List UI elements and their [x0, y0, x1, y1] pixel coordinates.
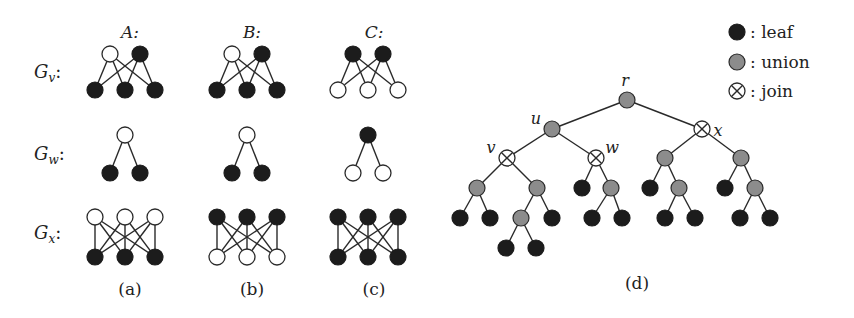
- node-hollow: [87, 209, 103, 225]
- node-filled: [117, 249, 133, 265]
- node-filled: [209, 209, 225, 225]
- tree-node-union: [513, 210, 529, 226]
- column-label-c: C:: [365, 22, 384, 42]
- node-hollow: [117, 127, 133, 143]
- node-hollow: [360, 82, 376, 98]
- graph-b-gx: [209, 209, 285, 265]
- svg-text:Gx:: Gx:: [34, 222, 61, 246]
- graph-c-gx: [330, 209, 406, 265]
- legend-leaf-label: : leaf: [750, 22, 795, 42]
- tree-node-leaf: [614, 210, 630, 226]
- caption-b: (b): [240, 279, 264, 299]
- node-filled: [117, 82, 133, 98]
- graph-c-gw: [345, 127, 391, 181]
- tree-node-leaf: [642, 180, 658, 196]
- graph-a-gw: [102, 127, 148, 181]
- tree-node-union: [544, 121, 560, 137]
- tree-node-join: [694, 121, 710, 137]
- tree-node-union: [657, 150, 673, 166]
- node-filled: [330, 209, 346, 225]
- node-hollow: [239, 127, 255, 143]
- node-filled: [224, 165, 240, 181]
- graph-a-gx: [87, 209, 163, 265]
- node-filled: [147, 82, 163, 98]
- row-label-gw: Gw:: [34, 143, 65, 167]
- tree-node-leaf: [452, 210, 468, 226]
- graph-a-gv: [87, 46, 163, 98]
- node-filled: [390, 249, 406, 265]
- node-filled: [269, 82, 285, 98]
- tree-node-leaf: [732, 210, 748, 226]
- node-hollow: [239, 249, 255, 265]
- tree-node-leaf: [687, 210, 703, 226]
- node-filled: [390, 209, 406, 225]
- tree-node-leaf: [584, 210, 600, 226]
- graph-b-gv: [209, 46, 285, 98]
- node-filled: [209, 82, 225, 98]
- node-filled: [360, 127, 376, 143]
- node-hollow: [209, 249, 225, 265]
- tree-node-leaf: [657, 210, 673, 226]
- node-filled: [87, 249, 103, 265]
- tree-node-union: [603, 180, 619, 196]
- tree-node-union: [619, 92, 635, 108]
- node-hollow: [375, 165, 391, 181]
- node-filled: [345, 46, 361, 62]
- node-hollow: [224, 46, 240, 62]
- node-hollow: [390, 82, 406, 98]
- tree-label-x: x: [713, 121, 722, 140]
- node-filled: [132, 46, 148, 62]
- tree-node-leaf: [574, 180, 590, 196]
- node-filled: [147, 249, 163, 265]
- caption-d: (d): [625, 273, 649, 293]
- tree-node-join: [588, 150, 604, 166]
- caption-a: (a): [118, 279, 141, 299]
- legend-union-icon: [729, 54, 745, 70]
- tree-node-join: [499, 150, 515, 166]
- tree-node-leaf: [498, 240, 514, 256]
- tree-node-union: [469, 180, 485, 196]
- node-filled: [239, 209, 255, 225]
- node-filled: [254, 165, 270, 181]
- tree-node-leaf: [544, 210, 560, 226]
- svg-text:Gv:: Gv:: [34, 61, 61, 85]
- legend: : leaf : union : join: [729, 22, 810, 101]
- tree-edge: [627, 100, 702, 129]
- legend-union-label: : union: [750, 52, 810, 72]
- node-filled: [269, 209, 285, 225]
- tree-node-leaf: [762, 210, 778, 226]
- node-filled: [375, 46, 391, 62]
- node-filled: [360, 209, 376, 225]
- node-filled: [239, 82, 255, 98]
- graph-c-gv: [330, 46, 406, 98]
- column-label-a: A:: [119, 22, 139, 42]
- tree-node-union: [529, 180, 545, 196]
- column-label-b: B:: [242, 22, 261, 42]
- node-filled: [330, 249, 346, 265]
- node-filled: [132, 165, 148, 181]
- node-hollow: [269, 249, 285, 265]
- caption-c: (c): [363, 279, 386, 299]
- node-hollow: [345, 165, 361, 181]
- tree-label-v: v: [486, 138, 495, 157]
- node-filled: [254, 46, 270, 62]
- tree-node-union: [671, 180, 687, 196]
- legend-join-label: : join: [750, 81, 793, 101]
- legend-leaf-icon: [729, 24, 745, 40]
- tree-nodes: [452, 92, 778, 256]
- row-label-gv: Gv:: [34, 61, 61, 85]
- node-filled: [102, 165, 118, 181]
- node-filled: [87, 82, 103, 98]
- tree-label-r: r: [621, 71, 630, 90]
- tree-label-u: u: [531, 109, 541, 128]
- tree-node-union: [733, 150, 749, 166]
- tree-edges: [460, 100, 770, 248]
- figure-canvas: A: B: C: Gv: Gw: Gx: (a) (b) (c) r u x v…: [0, 0, 854, 318]
- tree-edge: [552, 100, 627, 129]
- svg-text:Gw:: Gw:: [34, 143, 65, 167]
- graph-b-gw: [224, 127, 270, 181]
- legend-join-icon: [729, 83, 745, 99]
- bipartite-graphs: [87, 46, 406, 265]
- node-hollow: [330, 82, 346, 98]
- node-hollow: [117, 209, 133, 225]
